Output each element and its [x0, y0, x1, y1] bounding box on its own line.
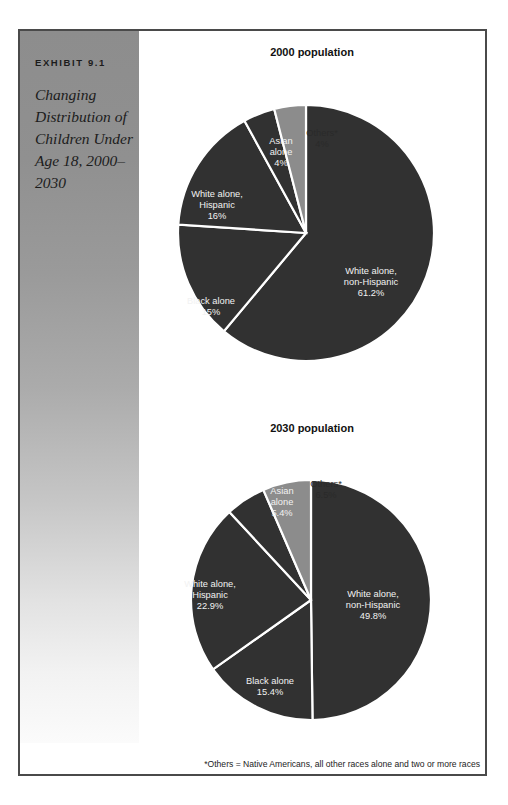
pie-slice-label: Asianalone5.4%	[270, 486, 293, 518]
footnote-others-definition: *Others = Native Americans, all other ra…	[180, 759, 480, 769]
exhibit-title: Changing Distribution of Children Under …	[35, 84, 137, 194]
pie-svg-2030: White alone,non-Hispanic49.8%Black alone…	[139, 410, 485, 740]
pie-chart-2030-population: 2030 population White alone,non-Hispanic…	[139, 410, 485, 745]
pie-chart-2000-population: 2000 population White alone,non-Hispanic…	[139, 40, 485, 410]
pie-svg-2000: White alone,non-Hispanic61.2%Black alone…	[139, 40, 485, 400]
exhibit-caption-panel: EXHIBIT 9.1 Changing Distribution of Chi…	[20, 31, 139, 743]
exhibit-number-label: EXHIBIT 9.1	[35, 57, 135, 68]
